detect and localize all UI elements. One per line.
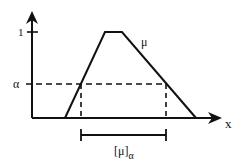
alpha-label: α: [13, 77, 20, 91]
interval-label: [μ]α: [114, 144, 134, 161]
mu-label: μ: [141, 35, 147, 49]
interval-label-subscript: α: [128, 150, 134, 161]
x-axis-label: x: [225, 116, 232, 131]
y-tick-one-label: 1: [18, 26, 24, 38]
membership-function-curve: [65, 32, 196, 118]
interval-label-main: [μ]: [114, 144, 128, 158]
alpha-cut-diagram: 1 α μ [μ]α x: [0, 0, 244, 168]
